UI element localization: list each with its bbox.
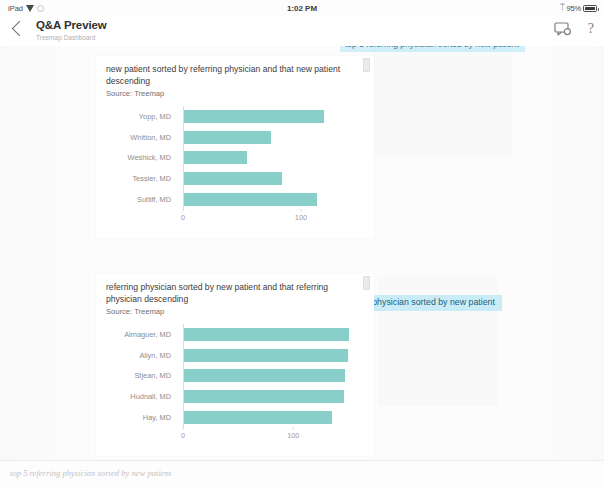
category-label: Weshick, MD [106,153,176,162]
status-bar-right: ᛠ 95% [560,4,597,13]
question-input[interactable]: top 5 referring physician sorted by new … [10,468,171,478]
bar-chart-2: Almaguer, MD Allyn, MD Stjean, MD Hudnal… [106,324,364,446]
report-canvas[interactable]: top 5 referring physician sorted by new … [0,46,604,460]
category-label: Almaguer, MD [106,330,176,339]
visual-title-2: referring physician sorted by new patien… [106,282,358,305]
ipad-screen: iPad 1:02 PM ᛠ 95% Q&A Preview Treemap D… [0,0,604,488]
axis-tick-mark [300,209,301,212]
battery-icon [583,5,597,12]
category-label: Hudnall, MD [106,392,176,401]
visual-source-2: Source: Treemap [106,307,164,316]
axis-tick-label: 0 [181,213,185,222]
header-title-block: Q&A Preview Treemap Dashboard [36,19,107,43]
bar [184,110,324,123]
bar-row[interactable] [184,172,355,185]
category-axis-labels-2: Almaguer, MD Allyn, MD Stjean, MD Hudnal… [106,324,176,428]
bar-row[interactable] [184,369,355,382]
canvas-shading [372,46,512,156]
visual-scrollbar-1[interactable] [363,58,370,72]
axis-tick-mark [183,209,184,212]
visual-card-1[interactable]: new patient sorted by referring physicia… [96,56,374,238]
bar [184,151,247,164]
category-label: Whitton, MD [106,133,176,142]
bar-row[interactable] [184,390,355,403]
category-label: Tessier, MD [106,174,176,183]
page-title: Q&A Preview [36,19,107,32]
axis-tick-label: 0 [181,431,185,440]
bar [184,369,345,382]
clipped-utterance-chip[interactable]: top 5 referring physician sorted by new … [340,46,525,52]
plot-area-2 [183,324,355,428]
bar-row[interactable] [184,151,355,164]
category-label: Sutliff, MD [106,195,176,204]
axis-tick-label: 100 [295,213,307,222]
question-bar-divider [0,460,604,461]
comment-icon[interactable] [554,22,572,36]
bar [184,411,332,424]
battery-percent-label: 95% [567,4,581,13]
category-label: Yopp, MD [106,112,176,121]
category-label: Stjean, MD [106,371,176,380]
clock-label: 1:02 PM [0,4,604,13]
axis-tick-label: 100 [287,431,299,440]
help-question-icon[interactable]: ? [588,22,594,36]
visual-source-1: Source: Treemap [106,89,164,98]
category-label: Allyn, MD [106,351,176,360]
visual-card-2[interactable]: referring physician sorted by new patien… [96,274,374,456]
visual-scrollbar-2[interactable] [363,276,370,290]
bar [184,349,348,362]
axis-tick-mark [293,427,294,430]
bar-series-2 [184,324,355,428]
bluetooth-icon: ᛠ [560,4,565,12]
bar-row[interactable] [184,411,355,424]
bar [184,172,282,185]
ios-status-bar: iPad 1:02 PM ᛠ 95% [0,0,604,16]
bar [184,193,317,206]
bar-series-1 [184,106,355,210]
axis-tick-mark [183,427,184,430]
header-actions: ? [554,22,594,36]
category-axis-labels-1: Yopp, MD Whitton, MD Weshick, MD Tessier… [106,106,176,210]
bar [184,131,271,144]
app-header-bar: Q&A Preview Treemap Dashboard ? [0,16,604,46]
plot-area-1 [183,106,355,210]
bar-chart-1: Yopp, MD Whitton, MD Weshick, MD Tessier… [106,106,364,228]
value-axis-1: 0 100 [183,212,355,226]
bar [184,390,344,403]
visual-title-1: new patient sorted by referring physicia… [106,64,358,87]
bar-row[interactable] [184,110,355,123]
bar-row[interactable] [184,131,355,144]
category-label: Hay, MD [106,413,176,422]
question-input-bar[interactable]: top 5 referring physician sorted by new … [0,460,604,488]
back-chevron-icon[interactable] [12,21,28,37]
value-axis-2: 0 100 [183,430,355,444]
bar-row[interactable] [184,193,355,206]
bar [184,328,349,341]
bar-row[interactable] [184,328,355,341]
bar-row[interactable] [184,349,355,362]
page-subtitle: Treemap Dashboard [36,33,107,43]
